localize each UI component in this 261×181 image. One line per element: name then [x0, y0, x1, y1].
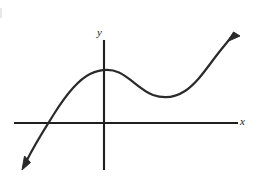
curve-arrowhead-upper-right	[228, 32, 241, 42]
graph-figure: y x	[0, 0, 261, 181]
cubic-curve	[27, 35, 233, 160]
curve-arrowhead-lower-left	[22, 156, 31, 170]
y-axis-label: y	[97, 27, 102, 38]
x-axis-label: x	[240, 116, 245, 127]
coordinate-plane-svg	[0, 0, 261, 181]
